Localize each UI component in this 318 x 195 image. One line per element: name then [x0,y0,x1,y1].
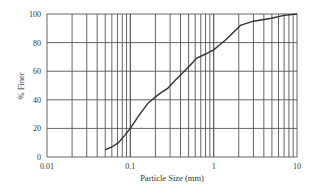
y-tick-label: 0 [37,153,41,162]
x-axis-ticks: 0.010.1110 [40,162,301,171]
y-tick-label: 100 [29,10,41,19]
y-tick-label: 60 [33,67,41,76]
y-axis-label: % Finer [16,72,26,99]
y-axis-ticks: 020406080100 [29,10,41,162]
y-tick-label: 40 [33,96,41,105]
x-tick-label: 0.1 [125,162,135,171]
x-tick-label: 10 [293,162,301,171]
y-tick-label: 20 [33,124,41,133]
x-tick-label: 0.01 [40,162,54,171]
gradation-chart: 020406080100 0.010.1110 Particle Size (m… [0,0,318,195]
grid-lines [47,14,297,157]
x-tick-label: 1 [212,162,216,171]
y-tick-label: 80 [33,39,41,48]
x-axis-label: Particle Size (mm) [140,173,204,183]
